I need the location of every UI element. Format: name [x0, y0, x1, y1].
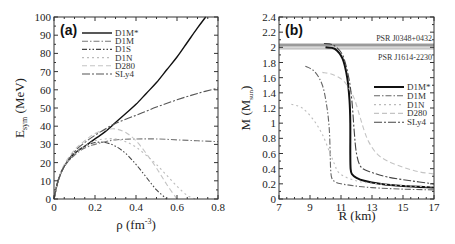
panel-b-legend: D1M*D1MD1ND280SLy4 [374, 82, 431, 127]
y-tick-label: 70 [40, 66, 52, 78]
y-tick-label: 20 [40, 157, 52, 169]
y-tick-label: 2.2 [262, 26, 276, 38]
panel-b-mass-radius: 791113151700.20.40.60.811.21.41.61.822.2… [238, 11, 440, 223]
y-tick-label: 2.4 [262, 11, 276, 23]
panel-a-legend: D1M*D1MD1SD1ND280SLy4 [82, 28, 139, 79]
x-tick-label: 7 [276, 201, 282, 213]
curve-d1s [54, 142, 167, 199]
psr-j1614-label: PSR J1614-2230 [378, 53, 432, 62]
x-tick-label: 0.8 [211, 201, 225, 213]
x-tick-label: 0.2 [88, 201, 102, 213]
panel-b-x-axis-label: R (km) [338, 208, 375, 223]
y-tick-label: 30 [40, 138, 52, 150]
legend-label: SLy4 [115, 69, 135, 79]
y-tick-label: 1.8 [262, 57, 276, 69]
panel-a-symmetry-energy: 00.20.40.60.80102030405060708090100 (a) … [12, 11, 225, 232]
psr-j0348-label: PSR J0348+0432 [376, 34, 432, 43]
pulsar-band-1 [279, 47, 434, 49]
y-tick-label: 0.4 [262, 163, 276, 175]
y-tick-label: 0.8 [262, 132, 276, 144]
y-tick-label: 1.4 [262, 87, 276, 99]
pulsar-mass-bands [279, 44, 434, 50]
panel-a-y-axis-label: Esym (MeV) [12, 78, 29, 138]
y-tick-label: 60 [40, 84, 52, 96]
panel-a-frame [54, 17, 218, 199]
y-tick-label: 40 [40, 120, 52, 132]
y-tick-label: 2 [271, 41, 277, 53]
y-tick-label: 100 [35, 11, 52, 23]
panel-a-tag: (a) [60, 22, 77, 38]
y-tick-label: 0.2 [262, 178, 276, 190]
x-tick-label: 15 [398, 201, 410, 213]
y-tick-label: 1 [271, 117, 277, 129]
figure: 00.20.40.60.80102030405060708090100 (a) … [0, 0, 455, 244]
x-tick-label: 17 [429, 201, 441, 213]
pulsar-band-0 [279, 44, 434, 47]
y-tick-label: 90 [40, 29, 52, 41]
y-tick-label: 10 [40, 175, 52, 187]
panel-a-curves [54, 17, 218, 199]
panel-b-y-axis-label: M (Msun) [238, 86, 255, 131]
y-tick-label: 1.2 [262, 102, 276, 114]
curve-d1n [54, 139, 195, 199]
y-tick-label: 0 [271, 193, 277, 205]
x-tick-label: 0.4 [129, 201, 143, 213]
y-tick-label: 80 [40, 47, 52, 59]
legend-label: SLy4 [407, 117, 427, 127]
panel-a-x-axis-label: ρ (fm-3) [116, 217, 156, 232]
x-tick-label: 0 [51, 201, 57, 213]
y-tick-label: 1.6 [262, 72, 276, 84]
x-tick-label: 9 [307, 201, 313, 213]
y-tick-label: 0 [46, 193, 52, 205]
x-tick-label: 0.6 [170, 201, 184, 213]
y-tick-label: 0.6 [262, 148, 276, 160]
y-tick-label: 50 [40, 102, 52, 114]
panel-b-tag: (b) [285, 22, 303, 38]
